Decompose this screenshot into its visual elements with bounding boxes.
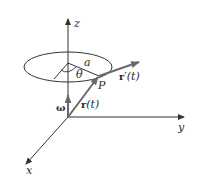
point-p-label: P [97, 79, 106, 92]
x-axis [26, 117, 68, 164]
angle-label: θ [76, 68, 83, 81]
position-vector [68, 77, 98, 117]
y-axis-label: y [177, 121, 185, 134]
radius-label: a [84, 56, 91, 69]
z-axis-label: z [73, 17, 80, 30]
angular-velocity-label: ω [56, 102, 66, 113]
radius-reference [54, 63, 68, 79]
rotation-diagram: z y x a θ ω r(t) r′(t) P [0, 0, 198, 182]
x-axis-label: x [26, 164, 33, 177]
velocity-vector-label: r′(t) [119, 70, 140, 83]
position-vector-label: r(t) [81, 98, 99, 111]
